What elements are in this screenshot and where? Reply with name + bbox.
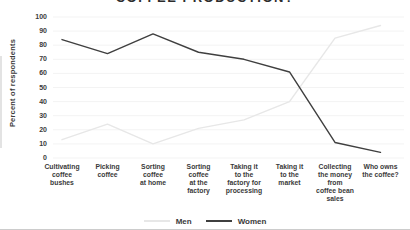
y-tick-label: 70 xyxy=(0,55,47,63)
x-axis-label: Taking it to the factory for processing xyxy=(219,163,269,195)
y-tick-label: 0 xyxy=(0,154,47,162)
x-axis-label: Collecting the money from coffee bean sa… xyxy=(310,163,360,203)
y-tick-label: 20 xyxy=(0,126,47,134)
y-tick-label: 80 xyxy=(0,41,47,49)
y-tick-label: 60 xyxy=(0,69,47,77)
coffee-production-line-chart: COFFEE PRODUCTION? Percent of respondent… xyxy=(0,0,410,230)
y-tick-label: 30 xyxy=(0,112,47,120)
x-axis-label: Who owns the coffee? xyxy=(356,163,406,179)
y-tick-label: 50 xyxy=(0,84,47,92)
legend: Men Women xyxy=(0,215,410,227)
y-tick-label: 10 xyxy=(0,140,47,148)
y-tick-label: 40 xyxy=(0,98,47,106)
legend-label-women: Women xyxy=(238,217,267,226)
men-series-line xyxy=(62,25,381,143)
left-edge-artifact xyxy=(0,56,2,148)
x-axis-label: Taking it to the market xyxy=(265,163,315,187)
women-line-swatch xyxy=(206,220,232,222)
legend-item-men: Men xyxy=(144,217,192,226)
women-series-line xyxy=(62,34,381,152)
x-axis-label: Cultivating coffee bushes xyxy=(37,163,87,187)
x-axis-label: Sorting coffee at home xyxy=(128,163,178,187)
bottom-divider xyxy=(0,229,410,230)
x-axis-label: Sorting coffee at the factory xyxy=(174,163,224,195)
legend-item-women: Women xyxy=(206,217,267,226)
men-line-swatch xyxy=(144,220,170,222)
y-tick-label: 90 xyxy=(0,27,47,35)
y-tick-label: 100 xyxy=(0,13,47,21)
legend-label-men: Men xyxy=(176,217,192,226)
x-axis-label: Picking coffee xyxy=(83,163,133,179)
